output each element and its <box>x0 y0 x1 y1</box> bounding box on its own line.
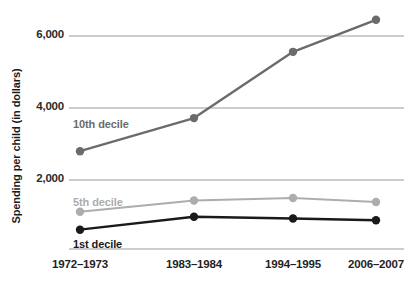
plot-area <box>0 0 419 292</box>
series-line-10th-decile <box>80 20 376 151</box>
series-line-5th-decile <box>80 198 376 212</box>
x-tick-label-4: 2006–2007 <box>348 258 404 270</box>
data-point <box>372 16 380 24</box>
series-label-1st-decile: 1st decile <box>73 238 122 250</box>
line-chart: Spending per child (in dollars) 6,000 4,… <box>0 0 419 292</box>
series-label-10th-decile: 10th decile <box>73 118 129 130</box>
data-point <box>289 194 297 202</box>
x-tick-label-2: 1983–1984 <box>166 258 222 270</box>
x-tick-label-3: 1994–1995 <box>265 258 321 270</box>
data-point <box>76 207 84 215</box>
data-point <box>190 196 198 204</box>
series-label-5th-decile: 5th decile <box>73 196 123 208</box>
data-point <box>190 114 198 122</box>
data-point <box>289 214 297 222</box>
data-point <box>289 48 297 56</box>
x-tick-label-1: 1972–1973 <box>52 258 108 270</box>
data-point <box>76 147 84 155</box>
data-point <box>372 198 380 206</box>
data-point <box>76 225 84 233</box>
series-line-1st-decile <box>80 217 376 230</box>
data-point <box>372 216 380 224</box>
data-point <box>190 213 198 221</box>
